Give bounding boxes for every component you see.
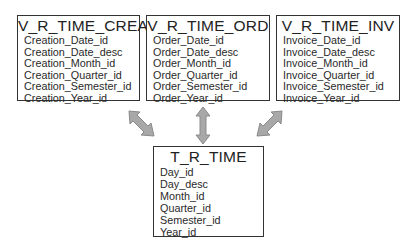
field-item: Year_id [160,226,263,238]
field-item: Creation_Year_id [24,93,139,105]
entity-box-v-r-time-inv: V_R_TIME_INV Invoice_Date_id Invoice_Dat… [276,15,400,101]
double-arrow-icon-inv-time [254,109,284,140]
field-item: Invoice_Date_id [283,35,399,47]
field-item: Semester_id [160,214,263,226]
entity-title: V_R_TIME_ORD [147,18,269,34]
field-item: Quarter_id [160,202,263,214]
field-item: Order_Date_id [153,35,269,47]
field-list: Order_Date_id Order_Date_desc Order_Mont… [153,35,269,105]
entity-box-v-r-time-crea: V_R_TIME_CREA Creation_Date_id Creation_… [17,15,140,101]
field-list: Creation_Date_id Creation_Date_desc Crea… [24,35,139,105]
field-item: Month_id [160,190,263,202]
field-item: Invoice_Year_id [283,93,399,105]
field-item: Creation_Date_id [24,35,139,47]
field-item: Day_desc [160,178,263,190]
field-item: Day_id [160,166,263,178]
field-list: Invoice_Date_id Invoice_Date_desc Invoic… [283,35,399,105]
entity-title: V_R_TIME_INV [277,18,399,34]
entity-box-t-r-time: T_R_TIME Day_id Day_desc Month_id Quarte… [153,146,264,237]
entity-title: V_R_TIME_CREA [18,18,139,34]
field-item: Order_Year_id [153,93,269,105]
double-arrow-icon-crea-time [127,109,157,140]
field-list: Day_id Day_desc Month_id Quarter_id Seme… [160,166,263,238]
entity-box-v-r-time-ord: V_R_TIME_ORD Order_Date_id Order_Date_de… [146,15,270,101]
double-arrow-icon-ord-time [194,106,212,145]
entity-title: T_R_TIME [154,149,263,165]
